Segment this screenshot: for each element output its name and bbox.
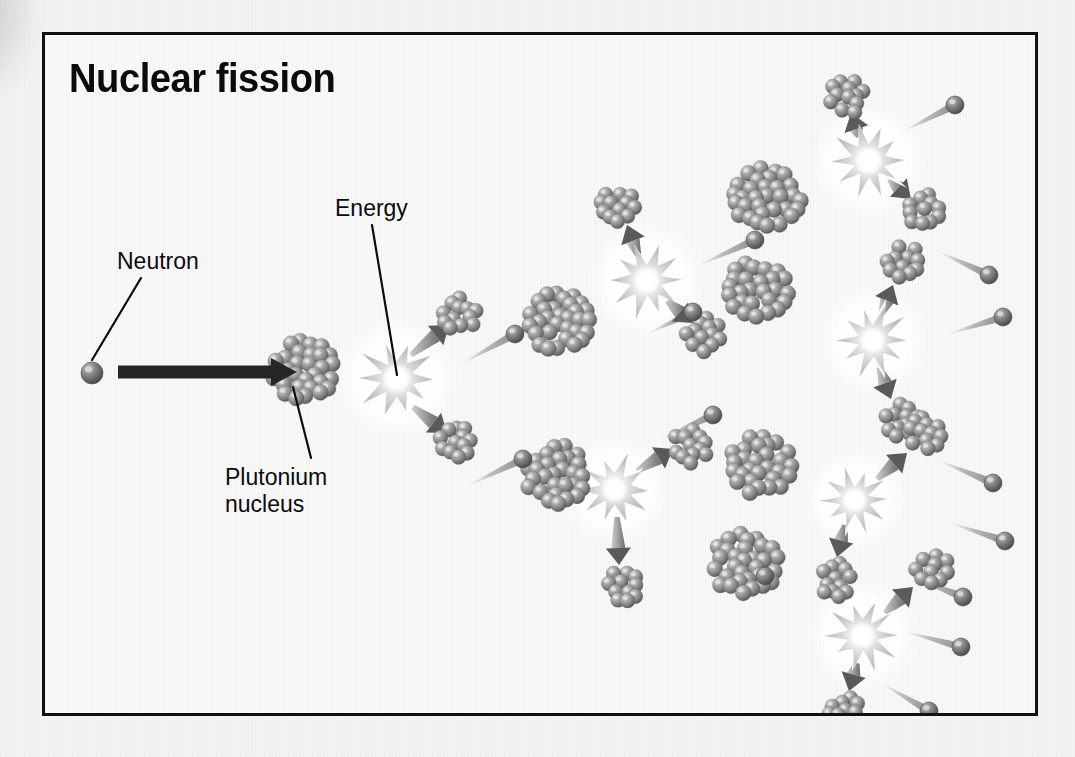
neutron [954,588,972,606]
scanned-page: Nuclear fission Neutron Energy Plutonium… [0,0,1075,757]
page-curl-artifact [0,0,44,106]
neutron [81,362,103,384]
fission-fragment [903,410,948,456]
label-plutonium-nucleus: Plutonium nucleus [225,464,327,518]
fission-fragment [816,556,857,604]
page-title: Nuclear fission [69,55,335,102]
neutron [980,266,998,284]
neutron [996,532,1014,550]
neutron [704,406,722,424]
plutonium-nucleus [520,438,590,512]
plutonium-nucleus [522,286,597,357]
fission-fragment [601,566,643,608]
neutron [746,231,764,249]
fission-fragment [880,240,925,285]
plutonium-nucleus [721,256,796,325]
neutron [952,638,970,656]
fission-fragment [908,549,954,591]
fission-fragment [822,691,865,713]
neutron [946,96,964,114]
incident-arrow-shaft [118,366,271,379]
neutron [684,303,702,321]
leader-line-neutron [92,278,141,360]
fission-fragment [668,423,713,471]
neutron [984,474,1002,492]
neutron [756,567,774,585]
fission-diagram [45,35,1035,713]
neutron [514,450,532,468]
plutonium-nucleus [707,526,786,601]
neutron [994,308,1012,326]
fission-fragment [436,291,483,336]
plutonium-nucleus [726,160,808,233]
label-energy: Energy [335,195,408,222]
plutonium-nucleus [725,429,800,501]
figure-frame: Nuclear fission Neutron Energy Plutonium… [42,32,1038,716]
neutron [506,325,524,343]
label-neutron: Neutron [117,248,199,275]
